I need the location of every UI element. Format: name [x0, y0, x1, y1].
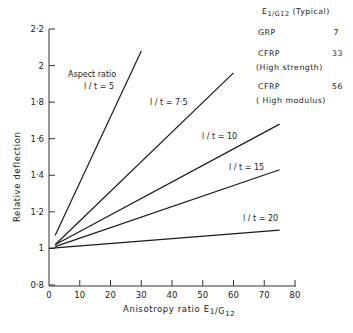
- x-tick-label: 70: [259, 290, 270, 300]
- x-axis-title-sub3: 12: [225, 310, 235, 318]
- y-tick-label: 1·4: [30, 170, 44, 180]
- series-line-2: [55, 124, 280, 245]
- x-tick-label: 30: [136, 290, 147, 300]
- chart-canvas: 0·811·21·41·61·822·2 01020304050607080 A…: [0, 0, 353, 333]
- series-line-1: [55, 73, 233, 245]
- annotation-series-1: l / t = 7·5: [150, 98, 188, 107]
- x-tick-label: 20: [105, 290, 116, 300]
- legend-entry-0-material: GRP: [258, 28, 276, 37]
- series-line-4: [49, 230, 280, 248]
- legend-entry-2-note: ( High modulus): [256, 96, 326, 105]
- legend-entry-0-value: 7: [334, 28, 339, 37]
- legend-title-suffix: (Typical): [293, 7, 330, 16]
- y-tick-label: 1·8: [30, 97, 44, 107]
- x-tick-label: 60: [228, 290, 239, 300]
- annotation-series-2: l / t = 10: [202, 132, 237, 141]
- legend: E1/G12(Typical) GRP 7 CFRP 33 (High stre…: [256, 7, 343, 105]
- y-tick-label: 2·2: [30, 24, 44, 34]
- y-tick-label: 1·2: [30, 207, 44, 217]
- legend-entry-1-note: (High strength): [256, 63, 323, 72]
- y-tick-label: 1: [39, 243, 44, 253]
- annotation-aspect-ratio-title: Aspect ratio: [68, 70, 116, 79]
- y-tick-label: 0·8: [30, 280, 44, 290]
- y-axis-title: Relative deflection: [12, 131, 22, 222]
- x-tick-label: 10: [74, 290, 85, 300]
- annotation-series-4: l / t = 20: [243, 214, 278, 223]
- x-tick-label: 40: [167, 290, 178, 300]
- x-tick-label: 80: [290, 290, 301, 300]
- y-axis-ticks: 0·811·21·41·61·822·2: [30, 24, 55, 290]
- legend-title: E1/G12(Typical): [262, 7, 330, 18]
- legend-entry-2-material: CFRP: [258, 82, 280, 91]
- legend-entry-1-material: CFRP: [258, 49, 280, 58]
- legend-entry-1-value: 33: [332, 49, 343, 58]
- x-axis-ticks: 01020304050607080: [46, 280, 300, 300]
- y-tick-label: 2: [39, 61, 44, 71]
- x-axis-title: Anisotropy ratio E1/G12: [123, 304, 235, 318]
- x-axis-title-sub2: /G: [215, 307, 225, 316]
- x-tick-label: 50: [197, 290, 208, 300]
- legend-entry-2-value: 56: [332, 82, 343, 91]
- annotation-series-0: l / t = 5: [84, 82, 114, 91]
- series-line-3: [55, 170, 280, 247]
- y-tick-label: 1·6: [30, 134, 44, 144]
- legend-title-sub: 1/G12: [267, 10, 289, 18]
- x-tick-label: 0: [46, 290, 51, 300]
- annotation-series-3: l / t = 15: [229, 163, 264, 172]
- x-axis-title-main: Anisotropy ratio E: [123, 304, 210, 314]
